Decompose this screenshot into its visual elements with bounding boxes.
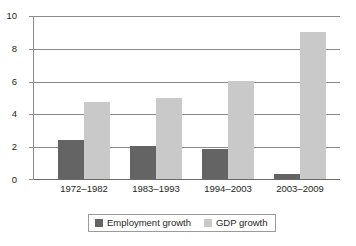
bar-group-3 xyxy=(269,16,331,179)
legend: Employment growth GDP growth xyxy=(88,214,276,232)
bar-employment-2[interactable] xyxy=(202,149,228,179)
bar-employment-3[interactable] xyxy=(274,174,300,179)
legend-swatch-icon-gdp xyxy=(204,219,212,227)
bar-gdp-1[interactable] xyxy=(156,98,182,180)
y-tick-label-8: 8 xyxy=(0,44,17,54)
y-tick-mark-2 xyxy=(29,147,34,148)
x-category-label-3: 2003–2009 xyxy=(269,183,331,194)
x-category-label-1: 1983–1993 xyxy=(125,183,187,194)
bar-employment-0[interactable] xyxy=(58,140,84,179)
y-tick-label-6: 6 xyxy=(0,77,17,87)
y-tick-label-4: 4 xyxy=(0,109,17,119)
y-tick-mark-6 xyxy=(29,82,34,83)
x-category-label-2: 1994–2003 xyxy=(197,183,259,194)
bar-gdp-0[interactable] xyxy=(84,102,110,179)
legend-entry-employment[interactable]: Employment growth xyxy=(95,218,191,228)
y-tick-label-2: 2 xyxy=(0,142,17,152)
legend-entry-gdp[interactable]: GDP growth xyxy=(204,218,268,228)
y-tick-label-10: 10 xyxy=(0,11,17,21)
plot-area xyxy=(33,16,340,180)
x-category-label-0: 1972–1982 xyxy=(53,183,115,194)
legend-swatch-icon-employment xyxy=(95,219,103,227)
legend-label-employment: Employment growth xyxy=(107,218,191,228)
bar-gdp-2[interactable] xyxy=(228,81,254,179)
y-tick-label-0: 0 xyxy=(0,175,17,185)
bar-gdp-3[interactable] xyxy=(300,32,326,180)
y-tick-mark-4 xyxy=(29,114,34,115)
x-axis-line xyxy=(33,179,340,180)
bar-group-0 xyxy=(53,16,115,179)
bar-chart: 10 8 6 4 2 0 xyxy=(0,0,356,246)
y-axis-line xyxy=(33,16,34,180)
bar-group-1 xyxy=(125,16,187,179)
bar-employment-1[interactable] xyxy=(130,146,156,179)
legend-label-gdp: GDP growth xyxy=(216,218,268,228)
y-tick-mark-8 xyxy=(29,49,34,50)
y-tick-mark-0 xyxy=(29,179,34,180)
bar-group-2 xyxy=(197,16,259,179)
y-tick-mark-10 xyxy=(29,16,34,17)
